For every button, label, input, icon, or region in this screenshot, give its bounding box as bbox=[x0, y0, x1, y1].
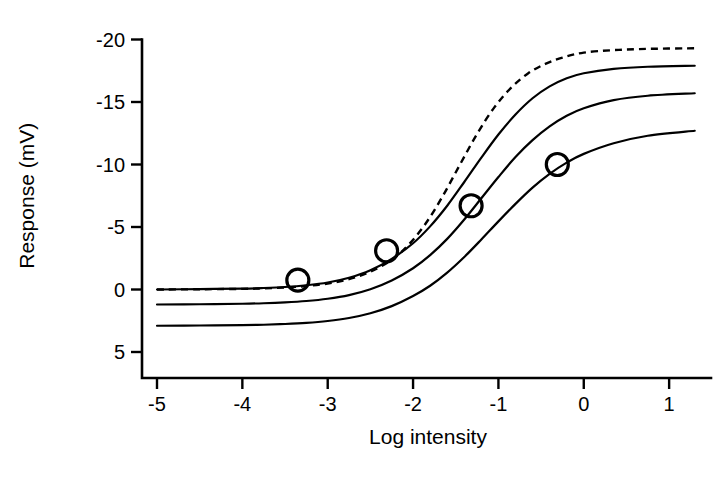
y-tick-label-4: 0 bbox=[114, 279, 125, 301]
series-curve-3 bbox=[157, 131, 695, 326]
data-point-marker-1 bbox=[376, 240, 398, 262]
figure-panel: -20-15-10-505-5-4-3-2-101 Log intensityR… bbox=[0, 0, 725, 484]
curves-layer bbox=[157, 48, 695, 326]
axes-layer: -20-15-10-505-5-4-3-2-101 bbox=[96, 29, 711, 416]
series-curve-2 bbox=[157, 93, 695, 304]
response-intensity-chart: -20-15-10-505-5-4-3-2-101 Log intensityR… bbox=[0, 0, 725, 484]
y-tick-label-0: -20 bbox=[96, 29, 125, 51]
x-tick-label-6: 1 bbox=[664, 393, 675, 415]
y-tick-label-2: -10 bbox=[96, 154, 125, 176]
x-tick-label-0: -5 bbox=[148, 393, 166, 415]
data-point-marker-0 bbox=[287, 269, 309, 291]
y-tick-label-5: 5 bbox=[114, 341, 125, 363]
axis-spines bbox=[142, 40, 711, 379]
y-tick-label-3: -5 bbox=[107, 216, 125, 238]
y-tick-label-1: -15 bbox=[96, 91, 125, 113]
x-tick-label-4: -1 bbox=[490, 393, 508, 415]
x-tick-label-5: 0 bbox=[578, 393, 589, 415]
x-tick-label-3: -2 bbox=[404, 393, 422, 415]
x-tick-label-1: -4 bbox=[233, 393, 251, 415]
y-axis-title: Response (mV) bbox=[15, 123, 38, 269]
x-axis-title: Log intensity bbox=[369, 425, 487, 448]
x-tick-label-2: -3 bbox=[319, 393, 337, 415]
series-curve-0 bbox=[157, 48, 695, 289]
data-point-marker-2 bbox=[460, 195, 482, 217]
